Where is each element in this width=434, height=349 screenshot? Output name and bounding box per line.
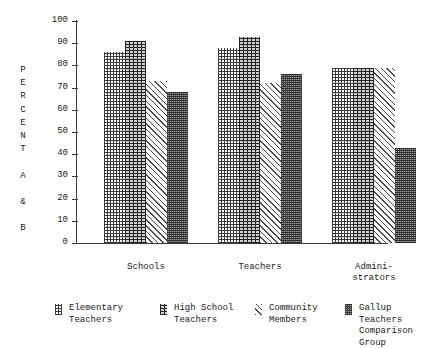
chart-legend: Elementary TeachersHigh School TeachersC… [0, 303, 434, 339]
y-axis-tick-mark [72, 154, 78, 155]
y-axis-tick-mark [72, 243, 78, 244]
bar [395, 148, 416, 243]
y-axis-tick-mark [72, 21, 78, 22]
legend-swatch-icon [345, 304, 352, 315]
bar [239, 37, 260, 243]
y-axis-tick-mark [72, 221, 78, 222]
y-axis-tick-label: 20 [57, 193, 68, 203]
y-axis-tick-label: 40 [57, 148, 68, 158]
bar [218, 48, 239, 243]
bar [104, 52, 125, 243]
legend-item: Elementary Teachers [55, 303, 123, 326]
y-axis-tick-label: 50 [57, 126, 68, 136]
y-axis-tick-label: 80 [57, 59, 68, 69]
x-axis-category-label: Teachers [210, 262, 310, 273]
x-axis-category-label: Admini- strators [324, 262, 424, 284]
bar [353, 68, 374, 243]
y-axis-tick-mark [72, 88, 78, 89]
y-axis-tick-label: 10 [57, 215, 68, 225]
y-axis-tick-mark [72, 65, 78, 66]
legend-item: Community Members [255, 303, 318, 326]
bar [281, 74, 302, 243]
legend-swatch-icon [55, 304, 62, 315]
y-axis-tick-mark [72, 110, 78, 111]
y-axis-tick-mark [72, 176, 78, 177]
legend-item: Gallup Teachers Comparison Group [345, 303, 434, 349]
x-axis-line [76, 243, 388, 244]
y-axis-tick-label: 70 [57, 82, 68, 92]
y-axis-tick-label: 60 [57, 104, 68, 114]
legend-swatch-icon [255, 304, 262, 315]
bar [260, 83, 281, 243]
x-axis-category-label: Schools [96, 262, 196, 273]
y-axis-tick-mark [72, 43, 78, 44]
y-axis-tick-label: 30 [57, 170, 68, 180]
bar [125, 41, 146, 243]
legend-label: Gallup Teachers Comparison Group [359, 303, 434, 349]
y-axis-tick-label: 0 [63, 237, 68, 247]
y-axis-tick-label: 90 [57, 37, 68, 47]
y-axis-tick-mark [72, 199, 78, 200]
legend-swatch-icon [160, 304, 167, 315]
bar [374, 68, 395, 243]
plot-area: 0102030405060708090100 [77, 21, 388, 243]
legend-label: High School Teachers [174, 303, 233, 326]
legend-label: Community Members [269, 303, 318, 326]
bar [146, 81, 167, 243]
y-axis-tick-label: 100 [52, 15, 68, 25]
bar [332, 68, 353, 243]
y-axis-tick-mark [72, 132, 78, 133]
bar [167, 92, 188, 243]
y-axis-title: P E R C E N T A & B [12, 64, 34, 236]
legend-item: High School Teachers [160, 303, 233, 326]
legend-label: Elementary Teachers [69, 303, 123, 326]
